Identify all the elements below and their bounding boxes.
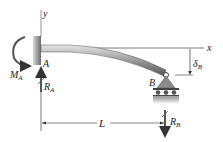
length-label: L xyxy=(98,117,105,129)
ground xyxy=(153,97,179,104)
dimension-arrowhead xyxy=(42,122,46,125)
roller xyxy=(156,90,161,95)
y-axis-label: y xyxy=(42,8,48,19)
point-a-label: A xyxy=(42,58,50,69)
reaction-b-label: RB xyxy=(169,116,181,129)
beam xyxy=(41,45,166,76)
fixed-wall xyxy=(33,36,41,65)
roller-plate xyxy=(153,88,179,90)
support-triangle xyxy=(157,76,175,88)
reaction-a-label: RA xyxy=(43,81,55,94)
moment-label: MA xyxy=(9,69,23,82)
moment-arrow xyxy=(13,37,30,66)
point-b-label: B xyxy=(149,77,155,88)
roller xyxy=(172,90,177,95)
roller xyxy=(164,90,169,95)
roller-base xyxy=(153,95,179,97)
x-axis-label: x xyxy=(206,42,212,53)
deflection-label: δB xyxy=(193,58,203,71)
dimension-arrowhead xyxy=(160,122,164,125)
beam-diagram: y x A B δB MA RA L RB xyxy=(0,0,223,142)
